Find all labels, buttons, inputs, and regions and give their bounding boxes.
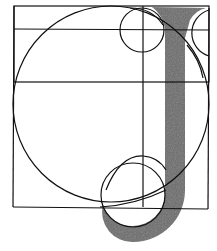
sweep-arc-bottom: [100, 190, 166, 207]
j-construction-diagram: Geometric construction of the letter J: [0, 0, 217, 251]
j-stem: [102, 7, 206, 242]
j-letterform: [102, 7, 206, 242]
diagram-canvas: [0, 0, 217, 251]
top-right-arc: [187, 45, 203, 78]
top-right-circle: [192, 10, 209, 56]
